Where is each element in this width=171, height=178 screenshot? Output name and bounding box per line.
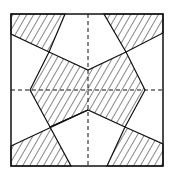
hatch-bottom-right [107,127,163,166]
hatch-top-right [104,14,163,52]
pattern-diagram [0,0,171,178]
hatch-top-left [11,14,65,52]
